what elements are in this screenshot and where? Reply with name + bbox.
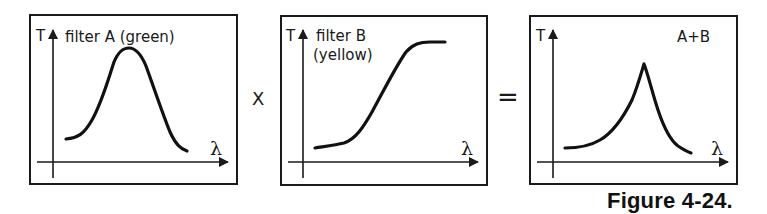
panel-subtitle: (yellow) [313,46,373,64]
panel-combined: T A+B λ [530,16,737,184]
transmission-curve-a [66,48,187,151]
panel-filter-a: T filter A (green) λ [30,15,237,184]
equals-operator: = [497,82,519,112]
y-axis-label: T [535,27,546,45]
panel-filter-b: T filter B (yellow) λ [281,16,487,185]
panel-title: filter B [316,27,366,45]
filter-combination-diagram: T filter A (green) λ X T filter B (yello… [0,0,767,214]
x-axis-label: λ [210,137,222,159]
y-axis-label: T [35,27,46,45]
figure-caption: Figure 4-24. [607,188,733,214]
multiply-operator: X [252,88,264,109]
panel-frame [281,16,487,185]
transmission-curve-combined [565,64,691,153]
y-axis-label: T [285,27,296,45]
x-axis-label: λ [461,137,473,159]
panel-title: filter A (green) [65,28,175,46]
x-axis-label: λ [711,137,723,159]
panel-title: A+B [677,28,710,46]
